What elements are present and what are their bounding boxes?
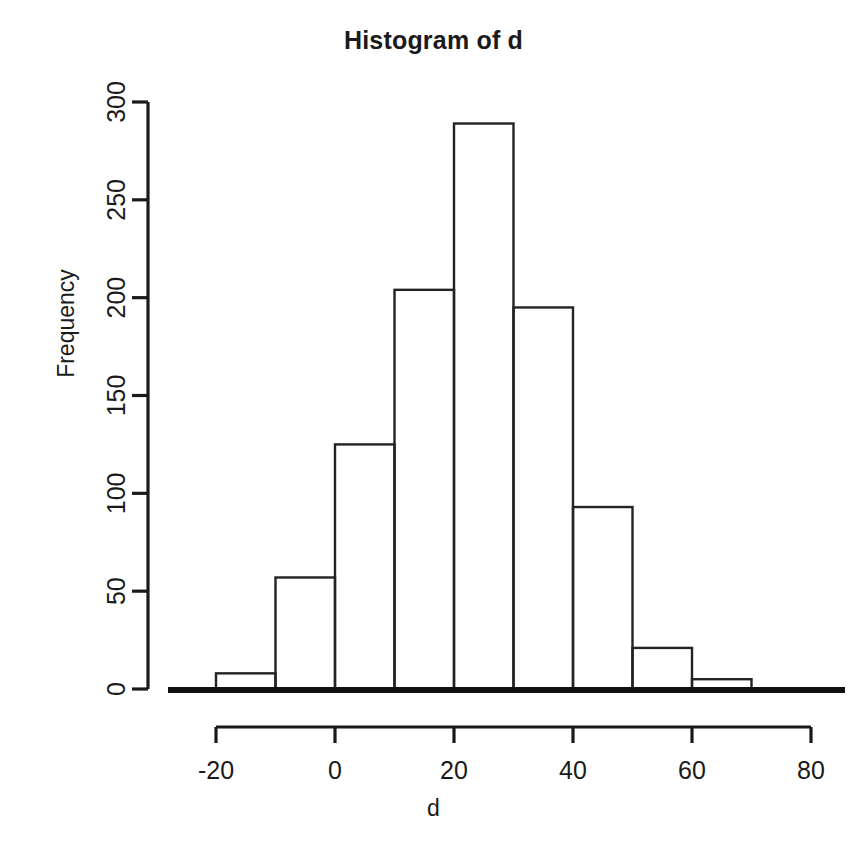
histogram-bar — [633, 648, 693, 689]
x-axis: -20020406080 — [198, 727, 825, 784]
histogram-bar — [454, 124, 514, 689]
histogram-bars — [216, 124, 752, 689]
histogram-bar — [216, 673, 276, 689]
x-tick-label-80: 80 — [797, 756, 825, 784]
histogram-bar — [514, 307, 574, 689]
histogram-bar — [335, 444, 395, 689]
chart-canvas: 050100150200250300 -20020406080 — [0, 0, 867, 866]
x-tick-label-40: 40 — [559, 756, 587, 784]
histogram-bar — [276, 577, 336, 689]
y-axis: 050100150200250300 — [102, 81, 148, 696]
y-tick-label-200: 200 — [102, 277, 130, 319]
x-tick-label--20: -20 — [198, 756, 234, 784]
y-tick-label-50: 50 — [102, 577, 130, 605]
x-tick-label-20: 20 — [440, 756, 468, 784]
x-tick-label-0: 0 — [328, 756, 342, 784]
histogram-bar — [395, 290, 455, 689]
y-tick-label-150: 150 — [102, 375, 130, 417]
histogram-bar — [573, 507, 633, 689]
y-tick-label-0: 0 — [102, 682, 130, 696]
y-tick-label-300: 300 — [102, 81, 130, 123]
x-tick-label-60: 60 — [678, 756, 706, 784]
y-tick-label-100: 100 — [102, 472, 130, 514]
histogram-plot: Histogram of d Frequency d 0501001502002… — [0, 0, 867, 866]
y-tick-label-250: 250 — [102, 179, 130, 221]
